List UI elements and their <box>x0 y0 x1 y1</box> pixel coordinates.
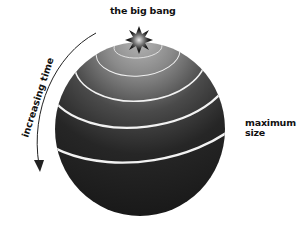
universe-sphere <box>55 42 225 216</box>
maximum-size-line-2: size <box>245 128 296 138</box>
big-bang-label: the big bang <box>110 6 176 16</box>
maximum-size-label: maximum size <box>245 118 296 138</box>
sphere-illustration: increasing time <box>0 0 299 226</box>
big-bang-burst-icon <box>125 26 153 54</box>
big-bang-diagram: increasing time the big bang maximum siz… <box>0 0 299 226</box>
arrowhead-icon <box>34 160 44 172</box>
